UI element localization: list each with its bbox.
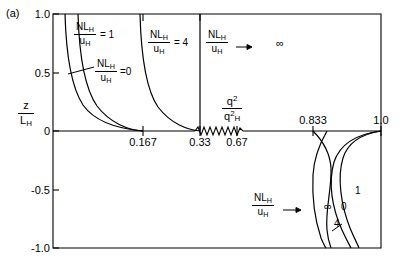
lower-curves <box>313 131 381 248</box>
x-tick-label-0833: 0.833 <box>293 115 333 126</box>
curve-label-1: 1 <box>355 185 361 196</box>
curve-ratio-infinity-lower <box>313 131 327 248</box>
y-axis-ticks <box>53 14 59 248</box>
annotation-ratio-infinity-bottom: NLH uH ∞ <box>252 193 332 218</box>
annotation-inf-top-numerator: NLH <box>206 30 228 41</box>
annotation-inf-bot-denominator: uH <box>252 207 274 218</box>
annotation-inf-top-rhs: ∞ <box>276 37 284 49</box>
x-tick-label-067: 0.67 <box>219 137 255 148</box>
figure-panel: (a) 1.0 0.5 0 -0.5 -1.0 z LH 0.167 0.33 … <box>0 0 405 266</box>
y-axis-label-denominator: LH <box>18 115 34 128</box>
annotation-0-denominator: uH <box>95 73 117 84</box>
annotation-ratio-eq-1: NLH uH = 1 <box>74 22 114 47</box>
annotation-inf-top-denominator: uH <box>206 44 228 55</box>
axis-break-zigzag <box>195 127 243 135</box>
leader-line-ratio-0 <box>68 67 94 74</box>
y-tick-label-3: 0 <box>8 126 50 137</box>
x-axis-label: q2 q2H <box>222 95 242 124</box>
annotation-1-denominator: uH <box>74 36 96 47</box>
x-tick-label-0167: 0.167 <box>123 137 163 148</box>
annotation-inf-bot-rhs: ∞ <box>324 200 332 212</box>
curve-label-4: 4 <box>334 218 340 229</box>
annotation-4-rhs: = 4 <box>174 37 188 48</box>
annotation-4-denominator: uH <box>148 44 170 55</box>
y-tick-label-4: -0.5 <box>8 185 50 196</box>
annotation-1-numerator: NLH <box>74 22 96 33</box>
annotation-0-numerator: NLH <box>95 59 117 70</box>
annotation-ratio-eq-4: NLH uH = 4 <box>148 30 188 55</box>
x-tick-label-033: 0.33 <box>182 137 218 148</box>
zero-axis-line <box>53 127 381 135</box>
annotation-inf-bot-numerator: NLH <box>252 193 274 204</box>
y-tick-label-1: 1.0 <box>8 9 50 20</box>
annotation-ratio-infinity-top: NLH uH ∞ <box>206 30 284 55</box>
y-axis-label-numerator: z <box>18 100 34 112</box>
y-tick-label-2: 0.5 <box>8 68 50 79</box>
x-axis-label-numerator: q2 <box>222 95 242 107</box>
annotation-ratio-eq-0: NLH uH =0 <box>95 59 131 84</box>
curve-label-0: 0 <box>341 201 347 212</box>
y-tick-label-5: -1.0 <box>8 243 50 254</box>
annotation-1-rhs: = 1 <box>100 29 114 40</box>
annotation-0-rhs: =0 <box>120 66 131 77</box>
x-tick-label-10: 1.0 <box>365 115 397 126</box>
annotation-4-numerator: NLH <box>148 30 170 41</box>
y-axis-label: z LH <box>18 100 34 128</box>
curve-ratio-4-lower <box>313 131 331 248</box>
x-axis-label-denominator: q2H <box>222 110 242 124</box>
plot-svg <box>0 0 405 266</box>
